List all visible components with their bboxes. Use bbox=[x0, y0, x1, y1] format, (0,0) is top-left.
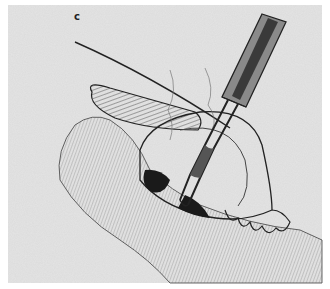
panel-label: c bbox=[74, 11, 80, 22]
illustration-drawing bbox=[0, 0, 330, 289]
surgical-illustration: c bbox=[0, 0, 330, 289]
